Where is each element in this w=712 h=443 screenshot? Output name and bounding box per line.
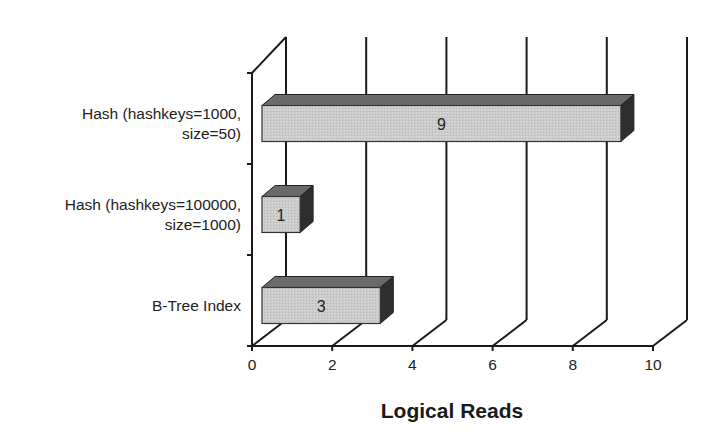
bar: 3	[262, 277, 393, 324]
bar-value-label: 9	[437, 116, 446, 133]
bar: 1	[262, 186, 313, 233]
x-tick-label: 4	[408, 356, 417, 373]
x-tick-labels: 0246810	[248, 356, 662, 373]
x-tick-label: 0	[248, 356, 257, 373]
bars: 913	[262, 95, 634, 324]
category-label: Hash (hashkeys=1000,	[82, 105, 241, 122]
bar-value-label: 3	[317, 298, 326, 315]
bar: 9	[262, 95, 634, 142]
category-label: size=50)	[182, 125, 241, 142]
bar-value-label: 1	[277, 207, 286, 224]
x-tick-label: 6	[488, 356, 497, 373]
x-tick-label: 8	[568, 356, 577, 373]
category-labels: Hash (hashkeys=1000,size=50)Hash (hashke…	[65, 105, 241, 314]
bar-chart: 913 Hash (hashkeys=1000,size=50)Hash (ha…	[0, 0, 712, 443]
x-tick-label: 2	[328, 356, 337, 373]
x-tick-label: 10	[644, 356, 662, 373]
category-label: B-Tree Index	[152, 297, 241, 314]
category-label: size=1000)	[165, 216, 241, 233]
category-label: Hash (hashkeys=100000,	[65, 196, 241, 213]
x-axis-title: Logical Reads	[381, 399, 523, 422]
